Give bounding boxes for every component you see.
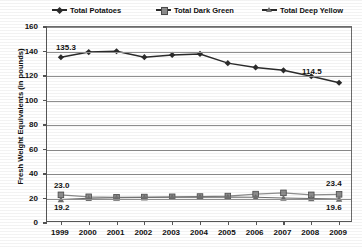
x-axis-tick-label: 2001: [107, 228, 125, 237]
y-axis-tick-label: 40: [0, 169, 38, 178]
x-axis-tick: [89, 221, 90, 225]
gridline: [47, 199, 351, 200]
data-label-potatoes-first: 135.3: [56, 43, 76, 52]
x-axis-tick: [311, 221, 312, 225]
y-axis-tick-label: 160: [0, 22, 38, 31]
legend-item-total-deep-yellow: Total Deep Yellow: [262, 2, 343, 18]
y-axis-tick: [43, 149, 47, 150]
y-axis-tick-label: 140: [0, 46, 38, 55]
x-axis-tick-label: 2000: [79, 228, 97, 237]
x-axis-tick-label: 2009: [329, 228, 347, 237]
x-axis-tick: [117, 221, 118, 225]
y-axis-tick-label: 0: [0, 218, 38, 227]
x-axis-tick: [256, 221, 257, 225]
legend-item-total-potatoes: Total Potatoes: [52, 2, 121, 18]
gridline: [47, 125, 351, 126]
data-label-potatoes-last: 114.5: [302, 67, 322, 76]
y-axis-tick-label: 100: [0, 95, 38, 104]
y-axis-tick-label: 120: [0, 71, 38, 80]
square-marker-icon: [156, 6, 171, 14]
data-point-marker: [280, 67, 286, 73]
y-axis-tick-label: 60: [0, 144, 38, 153]
y-axis-tick-label: 80: [0, 120, 38, 129]
x-axis-tick: [339, 221, 340, 225]
x-axis-tick: [61, 221, 62, 225]
y-axis-tick: [43, 124, 47, 125]
x-axis-tick: [228, 221, 229, 225]
x-axis-tick-label: 2004: [190, 228, 208, 237]
y-axis-tick: [43, 75, 47, 76]
data-label-deepyellow-last: 19.6: [326, 203, 342, 212]
y-axis-tick: [43, 26, 47, 27]
data-point-marker: [253, 64, 259, 70]
gridline: [47, 101, 351, 102]
gridline: [47, 174, 351, 175]
gridline: [47, 76, 351, 77]
x-axis-tick-label: 2003: [162, 228, 180, 237]
y-axis-tick: [43, 100, 47, 101]
data-label-darkgreen-last: 23.4: [326, 179, 342, 188]
x-axis-tick-label: 1999: [51, 228, 69, 237]
y-axis-tick: [43, 51, 47, 52]
x-axis-tick-label: 2002: [134, 228, 152, 237]
data-label-deepyellow-first: 19.2: [54, 203, 70, 212]
y-axis-tick: [43, 222, 47, 223]
x-axis-tick: [283, 221, 284, 225]
gridline: [47, 27, 351, 28]
legend-label: Total Deep Yellow: [280, 6, 343, 15]
legend-label: Total Potatoes: [70, 6, 121, 15]
x-axis-tick-label: 2005: [218, 228, 236, 237]
x-axis-tick: [172, 221, 173, 225]
triangle-marker-icon: [262, 6, 277, 14]
data-point-marker: [336, 80, 342, 86]
data-point-marker: [58, 54, 64, 60]
x-axis-tick-label: 2008: [301, 228, 319, 237]
legend-label: Total Dark Green: [174, 6, 234, 15]
y-axis-tick: [43, 173, 47, 174]
plot-area: [46, 26, 352, 222]
chart-container: Total Potatoes Total Dark Green Total De…: [0, 0, 362, 247]
x-axis-tick: [144, 221, 145, 225]
y-axis-tick-label: 20: [0, 193, 38, 202]
y-axis-tick: [43, 198, 47, 199]
data-point-marker: [169, 52, 175, 58]
data-label-darkgreen-first: 23.0: [54, 181, 70, 190]
chart-legend: Total Potatoes Total Dark Green Total De…: [0, 2, 362, 18]
x-axis-tick-label: 2006: [246, 228, 264, 237]
gridline: [47, 150, 351, 151]
x-axis-tick: [200, 221, 201, 225]
legend-item-total-dark-green: Total Dark Green: [156, 2, 234, 18]
data-point-marker: [141, 54, 147, 60]
data-point-marker: [225, 60, 231, 66]
x-axis-tick-label: 2007: [274, 228, 292, 237]
gridline: [47, 52, 351, 53]
diamond-marker-icon: [52, 6, 67, 14]
